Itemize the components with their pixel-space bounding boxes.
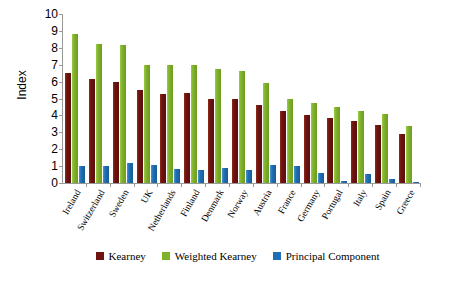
- y-tick-label: 10: [45, 6, 58, 22]
- y-tick-label: 1: [51, 158, 58, 174]
- y-tick-label: 3: [51, 124, 58, 140]
- plot-area: 012345678910: [62, 14, 421, 184]
- y-tick-label: 6: [51, 74, 58, 90]
- x-axis-label: France: [276, 188, 298, 215]
- bar-group: [230, 14, 254, 183]
- legend-item[interactable]: Kearney: [96, 250, 146, 262]
- bar-group: [278, 14, 302, 183]
- bar: [184, 93, 190, 183]
- bar-chart: Index 012345678910 IrelandSwitzerlandSwe…: [0, 0, 475, 281]
- x-label-cell: Norway: [229, 186, 253, 238]
- bar-group: [397, 14, 421, 183]
- x-label-cell: Sweden: [110, 186, 134, 238]
- x-label-cell: Italy: [348, 186, 372, 238]
- bar: [137, 90, 143, 183]
- bar-group: [325, 14, 349, 183]
- bar: [174, 169, 180, 183]
- bar: [96, 44, 102, 183]
- bar: [280, 111, 286, 183]
- bar: [358, 111, 364, 183]
- x-axis-label: Finland: [179, 188, 202, 218]
- bar: [294, 166, 300, 183]
- bar-group: [158, 14, 182, 183]
- x-label-cell: Austria: [253, 186, 277, 238]
- bar: [72, 34, 78, 183]
- bar: [151, 165, 157, 183]
- y-tick-label: 4: [51, 107, 58, 123]
- legend-swatch-icon: [273, 252, 281, 260]
- x-axis-label: Norway: [226, 188, 250, 220]
- legend-label: Weighted Kearney: [175, 250, 257, 262]
- bar: [270, 165, 276, 183]
- chart-legend: KearneyWeighted KearneyPrincipal Compone…: [0, 250, 475, 262]
- bar-group: [63, 14, 87, 183]
- bar: [382, 114, 388, 183]
- x-label-cell: France: [277, 186, 301, 238]
- x-label-cell: Finland: [181, 186, 205, 238]
- bar: [406, 126, 412, 183]
- bar-group: [135, 14, 159, 183]
- bar: [246, 170, 252, 183]
- x-label-cell: Switzerland: [86, 186, 110, 238]
- x-axis-label: Portugal: [320, 188, 345, 221]
- x-axis-label: Spain: [373, 188, 392, 212]
- legend-swatch-icon: [162, 252, 170, 260]
- bar: [198, 170, 204, 183]
- x-label-cell: Spain: [372, 186, 396, 238]
- bar: [222, 168, 228, 183]
- legend-item[interactable]: Principal Component: [273, 250, 380, 262]
- bar: [351, 121, 357, 183]
- y-tick-label: 9: [51, 23, 58, 39]
- legend-label: Kearney: [109, 250, 146, 262]
- x-axis-label: Sweden: [107, 188, 131, 219]
- legend-swatch-icon: [96, 252, 104, 260]
- y-tick-label: 2: [51, 141, 58, 157]
- bar: [144, 65, 150, 183]
- bar-group: [349, 14, 373, 183]
- bar-group: [373, 14, 397, 183]
- x-axis-label: Italy: [352, 188, 369, 208]
- x-axis-label: Austria: [251, 188, 274, 217]
- bars-layer: [63, 14, 421, 183]
- bar: [365, 174, 371, 183]
- bar: [263, 83, 269, 183]
- bar: [311, 103, 317, 183]
- bar: [232, 99, 238, 184]
- bar-group: [87, 14, 111, 183]
- bar: [103, 166, 109, 183]
- bar: [113, 82, 119, 183]
- bar: [215, 69, 221, 183]
- y-tick-label: 7: [51, 57, 58, 73]
- x-label-cell: Denmark: [205, 186, 229, 238]
- y-tick-label: 5: [51, 91, 58, 107]
- bar: [160, 94, 166, 183]
- bar: [318, 173, 324, 183]
- bar: [287, 99, 293, 184]
- x-axis-label: Ireland: [60, 188, 82, 216]
- bar: [256, 105, 262, 183]
- x-label-cell: Greece: [396, 186, 420, 238]
- bar: [304, 115, 310, 183]
- bar: [208, 99, 214, 184]
- bar: [167, 65, 173, 183]
- bar: [89, 79, 95, 183]
- bar: [79, 166, 85, 183]
- y-axis-title: Index: [15, 45, 29, 125]
- bar: [327, 118, 333, 183]
- bar-group: [111, 14, 135, 183]
- bar: [120, 45, 126, 183]
- x-label-cell: Portugal: [324, 186, 348, 238]
- legend-item[interactable]: Weighted Kearney: [162, 250, 257, 262]
- legend-label: Principal Component: [286, 250, 380, 262]
- bar: [334, 107, 340, 183]
- bar-group: [182, 14, 206, 183]
- bar-group: [254, 14, 278, 183]
- bar: [65, 73, 71, 183]
- bar: [239, 71, 245, 183]
- bar: [399, 134, 405, 183]
- x-axis-label: Greece: [395, 188, 417, 216]
- bar-group: [206, 14, 230, 183]
- y-tick-label: 0: [51, 175, 58, 191]
- x-axis-label: UK: [139, 188, 155, 205]
- bar: [127, 163, 133, 183]
